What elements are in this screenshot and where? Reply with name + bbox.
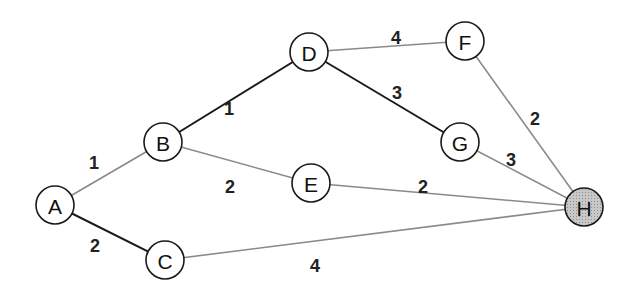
node-e: E (292, 164, 330, 202)
edge-weight-a-b: 1 (89, 153, 99, 173)
node-label: D (301, 42, 316, 65)
edge-weight-e-h: 2 (418, 177, 428, 197)
node-f: F (446, 22, 484, 60)
node-label: F (459, 31, 472, 54)
edge-weight-d-f: 4 (391, 28, 401, 48)
edge-weight-d-g: 3 (392, 83, 402, 103)
edge-f-h (465, 41, 584, 207)
node-label: C (157, 250, 172, 273)
node-a: A (36, 186, 74, 224)
edges (55, 41, 584, 260)
edge-weight-c-h: 4 (310, 256, 320, 276)
edge-d-f (309, 41, 465, 52)
edge-c-h (165, 207, 584, 260)
node-label: G (452, 132, 468, 155)
node-c: C (146, 241, 184, 279)
edge-weight-b-d: 1 (224, 99, 234, 119)
node-h: H (565, 188, 603, 226)
graph-diagram: 1212432324 ABCDEFGH (0, 0, 636, 291)
edge-weight-f-h: 2 (530, 109, 540, 129)
edge-b-e (163, 142, 311, 183)
edge-d-g (309, 52, 460, 142)
edge-e-h (311, 183, 584, 207)
node-label: B (156, 132, 170, 155)
node-label: A (48, 195, 62, 218)
node-b: B (144, 123, 182, 161)
edge-weight-g-h: 3 (506, 150, 516, 170)
node-g: G (441, 123, 479, 161)
edge-b-d (163, 52, 309, 142)
edge-weight-b-e: 2 (225, 177, 235, 197)
node-d: D (290, 33, 328, 71)
edge-weight-a-c: 2 (90, 236, 100, 256)
node-label: E (304, 173, 318, 196)
node-label: H (576, 197, 591, 220)
